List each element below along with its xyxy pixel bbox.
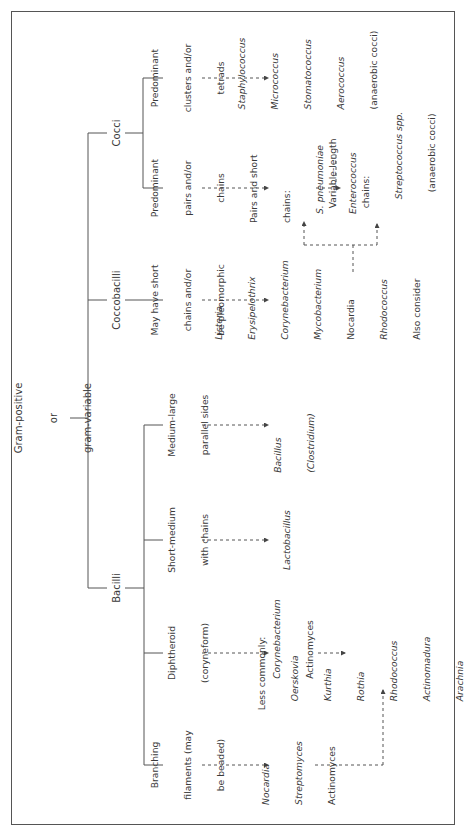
result-header: chains:	[360, 112, 371, 209]
result-header: Variable-length	[327, 112, 338, 209]
branch-bacilli-short-medium: Short-medium with chains	[144, 507, 221, 573]
branch-bacilli-diphtheroid: Diphtheroid (coryneform)	[144, 623, 221, 683]
organism: (anaerobic cocci)	[426, 112, 437, 209]
organism: (anaerobic cocci)	[368, 31, 379, 110]
organism: Actinomyces	[326, 741, 337, 805]
organism: Oerskovia	[289, 550, 300, 711]
result-bacilli-medium-large: Bacillus (Clostridium)	[250, 413, 327, 473]
also-consider-label: Also consider	[411, 260, 422, 340]
group-cocci-label: Cocci	[111, 120, 122, 147]
group-bacilli-label: Bacilli	[111, 573, 122, 603]
branch-bacilli-medium-large: Medium-large parallel sides	[144, 393, 221, 456]
organism: Streptococcus spp.	[393, 112, 404, 209]
organism: Erysipelothrix	[246, 260, 257, 340]
result-header: chains:	[281, 145, 292, 223]
organism: Rhodococcus	[388, 550, 399, 711]
group-coccobacilli-label: Coccobacilli	[111, 270, 122, 329]
organism: Streptomyces	[293, 741, 304, 805]
root-label: Gram-positive or gram-variable	[0, 383, 105, 454]
result-cocci-pairs-variable: Variable-length chains: Streptococcus sp…	[305, 112, 448, 209]
root-line-1: Gram-positive	[13, 383, 25, 454]
root-line-3: gram-variable	[82, 383, 94, 454]
result-coccobacilli: Listeria Erysipelothrix Corynebacterium …	[191, 260, 433, 340]
organism: Nocardia	[345, 260, 356, 340]
result-header: Pairs and short	[248, 145, 259, 223]
result-bacilli-branching: Nocardia Streptomyces Actinomyces	[238, 741, 348, 805]
result-header: Less commonly:	[256, 550, 267, 711]
branch-line: pairs and/or	[182, 159, 193, 217]
branch-line: Predominant	[149, 44, 160, 113]
branch-line: filaments (may	[182, 730, 193, 799]
branch-line: Short-medium	[166, 507, 177, 573]
branch-line: Diphtheroid	[166, 623, 177, 683]
organism: Aerococcus	[335, 31, 346, 110]
root-line-2: or	[47, 383, 59, 454]
organism: Listeria	[213, 260, 224, 340]
branch-cocci-pairs: Predominant pairs and/or chains	[127, 159, 237, 217]
branch-line: clusters and/or	[182, 44, 193, 113]
organism: Rhodococcus	[378, 260, 389, 340]
organism: Nocardia	[260, 741, 271, 805]
branch-line: with chains	[199, 507, 210, 573]
branch-line: chains	[215, 159, 226, 217]
organism: Stomatococcus	[302, 31, 313, 110]
branch-line: Branching	[149, 730, 160, 799]
organism: Mycobacterium	[312, 260, 323, 340]
branch-line: Predominant	[149, 159, 160, 217]
branch-line: May have short	[149, 264, 160, 336]
branch-line: Medium-large	[166, 393, 177, 456]
organism: Kurthia	[322, 550, 333, 711]
result-cocci-clusters: Staphylococcus Micrococcus Stomatococcus…	[214, 31, 390, 110]
branch-line: be beaded)	[215, 730, 226, 799]
result-less-commonly: Less commonly: Oerskovia Kurthia Rothia …	[234, 550, 467, 711]
organism: Arachnia	[454, 550, 465, 711]
branch-line: parallel sides	[199, 393, 210, 456]
organism: Corynebacterium	[279, 260, 290, 340]
organism: Rothia	[355, 550, 366, 711]
organism: (Clostridium)	[305, 413, 316, 473]
organism: Micrococcus	[269, 31, 280, 110]
branch-line: (coryneform)	[199, 623, 210, 683]
organism: Staphylococcus	[236, 31, 247, 110]
organism: Actinomadura	[421, 550, 432, 711]
branch-bacilli-branching: Branching filaments (may be beaded)	[127, 730, 237, 799]
organism: Bacillus	[272, 413, 283, 473]
